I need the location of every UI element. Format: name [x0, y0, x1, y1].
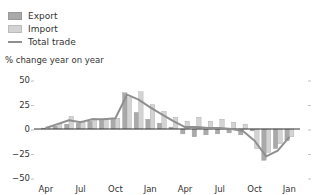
export-bar [146, 119, 151, 129]
import-bar [127, 98, 132, 129]
export-bar [76, 123, 81, 129]
import-bar [81, 122, 86, 129]
x-tick-label: Apr [38, 184, 53, 194]
import-bar [139, 92, 144, 129]
x-tick-label: Oct [247, 184, 262, 194]
x-tick-label: Apr [178, 184, 193, 194]
import-bar [69, 116, 74, 129]
import-bar [289, 129, 294, 137]
export-bar [181, 129, 186, 134]
import-bar [278, 129, 283, 144]
export-bar [204, 129, 209, 135]
export-bar [111, 119, 116, 129]
x-tick-label: Jul [214, 184, 225, 194]
export-bar [134, 112, 139, 129]
x-tick-label: Jan [143, 184, 157, 194]
export-bar [273, 129, 278, 149]
export-bar [99, 120, 104, 129]
y-tick-label: −50 [12, 173, 30, 183]
import-bar [266, 129, 271, 153]
import-bar [243, 124, 248, 129]
export-bar [157, 123, 162, 129]
y-tick-label: −25 [12, 149, 30, 159]
trade-chart: 50250−25−50AprJulOctJanAprJulOctJan [0, 0, 317, 195]
y-tick-label: 0 [25, 124, 30, 134]
export-bar [88, 121, 93, 129]
import-bar [115, 118, 120, 129]
export-bar [215, 129, 220, 134]
y-tick-label: 50 [19, 75, 30, 85]
export-bar [65, 124, 70, 129]
x-tick-label: Oct [108, 184, 123, 194]
x-tick-label: Jul [74, 184, 85, 194]
x-tick-label: Jan [282, 184, 296, 194]
export-bar [192, 129, 197, 137]
y-tick-label: 25 [19, 100, 30, 110]
import-bar [231, 122, 236, 129]
